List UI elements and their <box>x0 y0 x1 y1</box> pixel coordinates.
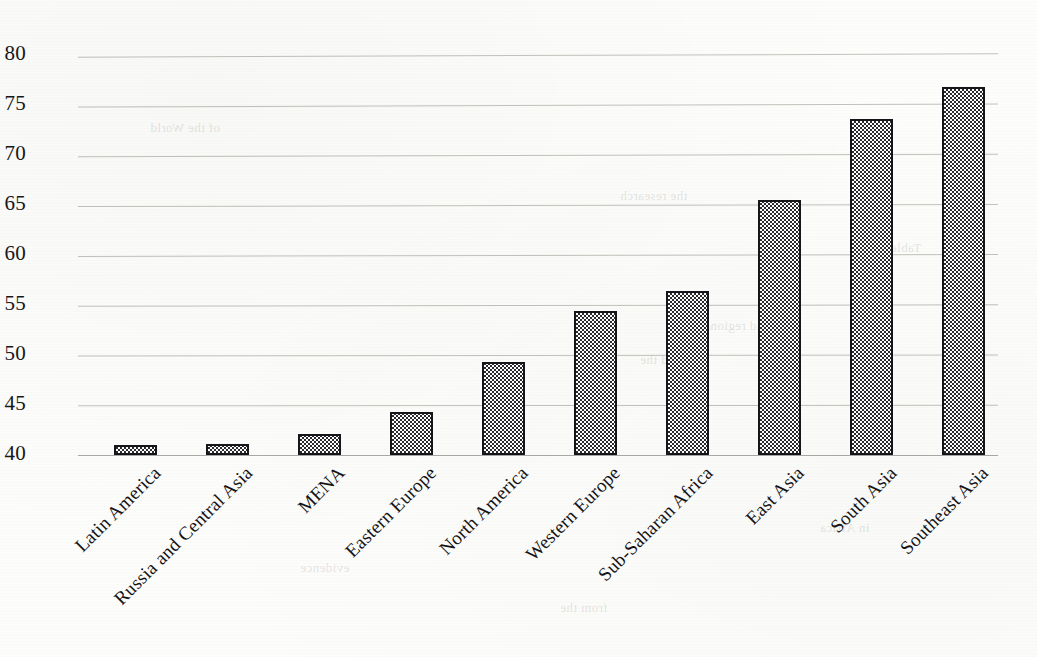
y-axis-tick-50: 50 <box>0 341 26 366</box>
bar-eastern-europe[interactable] <box>390 412 433 455</box>
bar-chart: 807570656055504540 Latin AmericaRussia a… <box>0 0 1037 657</box>
x-axis-label-mena: MENA <box>293 462 349 518</box>
x-axis-label-eastern-europe: Eastern Europe <box>341 462 441 562</box>
y-axis-tick-60: 60 <box>0 241 26 266</box>
y-axis-tick-70: 70 <box>0 141 26 166</box>
bar-latin-america[interactable] <box>114 445 157 455</box>
bar-north-america[interactable] <box>482 362 525 455</box>
bar-sub-saharan-africa[interactable] <box>666 291 709 455</box>
gridline-75 <box>78 103 998 107</box>
gridline-80 <box>78 53 998 58</box>
x-axis-label-latin-america: Latin America <box>70 462 165 557</box>
bar-southeast-asia[interactable] <box>942 87 985 455</box>
bar-south-asia[interactable] <box>850 119 893 455</box>
y-axis-tick-75: 75 <box>0 91 26 116</box>
bar-mena[interactable] <box>298 434 341 455</box>
x-axis-label-south-asia: South Asia <box>825 462 901 538</box>
y-axis-tick-45: 45 <box>0 391 26 416</box>
bar-east-asia[interactable] <box>758 200 801 455</box>
bar-russia-and-central-asia[interactable] <box>206 444 249 455</box>
y-axis-tick-65: 65 <box>0 191 26 216</box>
bar-western-europe[interactable] <box>574 311 617 455</box>
y-axis-tick-80: 80 <box>0 41 26 66</box>
gridline-40 <box>78 455 998 456</box>
y-axis-tick-55: 55 <box>0 291 26 316</box>
x-axis-label-east-asia: East Asia <box>742 462 809 529</box>
plot-area: 807570656055504540 <box>78 55 998 455</box>
y-axis-tick-40: 40 <box>0 441 26 466</box>
x-axis-label-southeast-asia: Southeast Asia <box>896 462 993 559</box>
x-axis-label-north-america: North America <box>435 462 533 560</box>
x-axis-label-western-europe: Western Europe <box>522 462 625 565</box>
